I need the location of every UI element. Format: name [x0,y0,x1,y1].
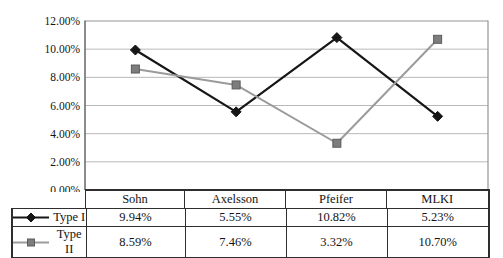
data-table: Type I 9.94% 5.55% 10.82% 5.23% Type II … [11,208,490,258]
category-header: Axelsson [185,190,286,208]
data-point-marker [232,81,240,89]
series-value-cell: 9.94% [86,209,185,227]
series-legend-cell: Type II [12,227,86,258]
series-legend-cell: Type I [12,209,86,227]
series-value-cell: 10.82% [286,209,387,227]
series-value-cell: 7.46% [185,227,286,258]
data-point-marker [130,45,140,55]
legend-marker-icon [13,212,49,223]
category-header: MLKI [387,190,489,208]
series-value-cell: 8.59% [86,227,185,258]
chart-figure: 0.00%2.00%4.00%6.00%8.00%10.00%12.00% So… [0,0,503,258]
data-point-marker [28,239,35,246]
legend-marker-icon [13,237,49,248]
table-row: Sohn Axelsson Pfeifer MLKI [86,190,489,208]
legend-label: Type II [53,227,86,257]
data-point-marker [333,139,341,147]
type1-series-icon [13,212,49,223]
y-tick-label: 10.00% [45,43,81,55]
plot-area: 0.00%2.00%4.00%6.00%8.00%10.00%12.00% [0,0,503,192]
data-point-marker [131,65,139,73]
category-header: Pfeifer [286,190,387,208]
series-value-cell: 10.70% [387,227,489,258]
series-line [135,39,437,143]
data-point-marker [27,213,36,222]
legend-label: Type I [53,210,85,225]
y-tick-label: 12.00% [45,15,81,27]
table-row: Type II 8.59% 7.46% 3.32% 10.70% [12,227,489,258]
y-tick-label: 0.00% [50,184,80,192]
series-value-cell: 5.55% [185,209,286,227]
y-tick-label: 6.00% [50,100,80,112]
y-tick-label: 2.00% [50,156,80,168]
y-tick-label: 4.00% [50,128,80,140]
type2-series-icon [13,237,49,248]
category-header-row: Sohn Axelsson Pfeifer MLKI [85,189,490,208]
table-row: Type I 9.94% 5.55% 10.82% 5.23% [12,209,489,227]
series-value-cell: 5.23% [387,209,489,227]
series-value-cell: 3.32% [286,227,387,258]
category-header: Sohn [86,190,185,208]
data-point-marker [434,35,442,43]
y-tick-label: 8.00% [50,71,80,83]
